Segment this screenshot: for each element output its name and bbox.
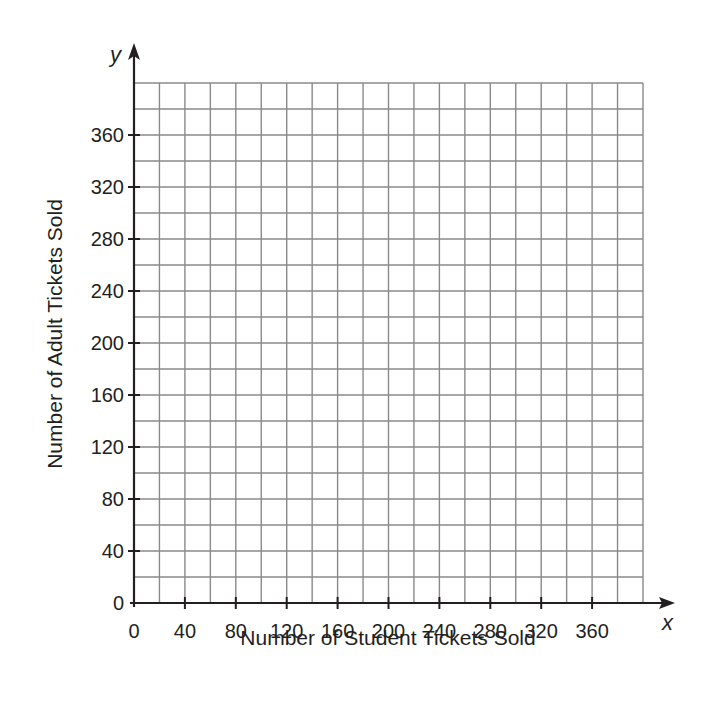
x-tick-label: 360 xyxy=(575,620,608,642)
y-tick-label: 160 xyxy=(91,384,124,406)
y-tick-label: 120 xyxy=(91,436,124,458)
y-axis-variable-label: y xyxy=(108,42,123,67)
y-axis-title: Number of Adult Tickets Sold xyxy=(43,199,66,469)
x-tick-label: 0 xyxy=(128,620,139,642)
y-axis-ticks: 04080120160200240280320360 xyxy=(91,124,140,614)
y-tick-label: 200 xyxy=(91,332,124,354)
x-axis-variable-label: x xyxy=(661,610,674,635)
y-tick-label: 80 xyxy=(102,488,124,510)
y-tick-label: 0 xyxy=(113,592,124,614)
y-tick-label: 360 xyxy=(91,124,124,146)
grid-lines xyxy=(134,83,643,603)
y-tick-label: 280 xyxy=(91,228,124,250)
y-tick-label: 240 xyxy=(91,280,124,302)
coordinate-grid-chart: 04080120160200240280320360 0408012016020… xyxy=(0,0,720,714)
x-axis-title: Number of Student Tickets Sold xyxy=(240,626,535,649)
x-tick-label: 40 xyxy=(174,620,196,642)
y-tick-label: 320 xyxy=(91,176,124,198)
y-tick-label: 40 xyxy=(102,540,124,562)
